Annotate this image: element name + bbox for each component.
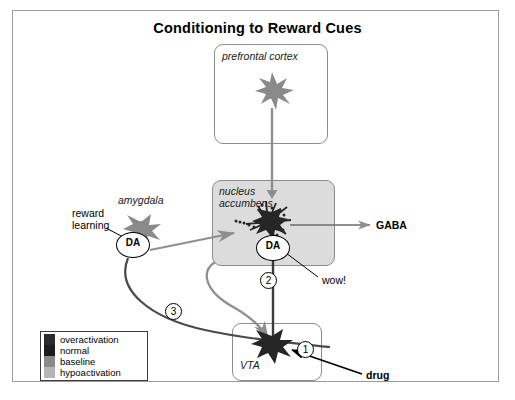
pathway-amygdala-to-nac [150,233,234,250]
legend-label-baseline: baseline [60,356,95,367]
legend-swatch-normal [44,345,55,356]
step-marker-3: 3 [165,303,182,320]
gaba-label: GABA [376,219,407,231]
vta-label: VTA [240,360,260,372]
reward-learning-label: reward learning [72,208,109,231]
step-marker-1: 1 [297,341,314,358]
legend-item: baseline [44,356,144,367]
da-circle-nucleus-accumbens: DA [256,235,290,261]
legend-swatch-hypoactivation [44,367,55,378]
legend-swatch-overactivation [44,334,55,345]
legend-label-normal: normal [60,345,89,356]
drug-label: drug [366,369,389,381]
activation-legend: overactivation normal baseline hypoactiv… [40,331,148,381]
legend-item: normal [44,345,144,356]
legend-swatch-baseline [44,356,55,367]
da-circle-amygdala: DA [116,232,150,258]
step-marker-2: 2 [260,272,277,289]
pathway-nac-to-vta [207,262,268,338]
nucleus-accumbens-label: nucleus accumbens [219,186,273,209]
prefrontal-cortex-label: prefrontal cortex [222,51,298,63]
amygdala-label: amygdala [118,195,164,207]
diagram-canvas: Conditioning to Reward Cues [0,0,515,400]
legend-label-overactivation: overactivation [60,334,119,345]
wow-label: wow! [322,275,346,287]
legend-item: overactivation [44,334,144,345]
neuron-prefrontal-cortex [255,72,294,110]
legend-label-hypoactivation: hypoactivation [60,367,121,378]
legend-item: hypoactivation [44,367,144,378]
